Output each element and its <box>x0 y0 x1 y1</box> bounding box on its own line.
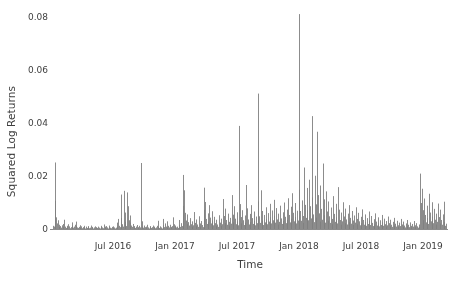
x-tick-label: Jul 2017 <box>219 241 256 251</box>
x-tick-label: Jul 2018 <box>343 241 380 251</box>
chart-figure: 00.020.040.060.08 Squared Log Returns Ti… <box>0 0 455 283</box>
x-axis-title: Time <box>45 258 455 270</box>
x-tick-label: Jan 2018 <box>279 241 319 251</box>
x-tick-label: Jan 2017 <box>155 241 195 251</box>
y-tick-label: 0.02 <box>8 171 48 181</box>
y-tick-label: 0.08 <box>8 12 48 22</box>
y-tick-label: 0.06 <box>8 65 48 75</box>
y-tick-label: 0 <box>8 224 48 234</box>
y-axis-tick-labels: 00.020.040.060.08 <box>0 0 48 283</box>
x-tick-label: Jan 2019 <box>403 241 443 251</box>
x-tick-label: Jul 2016 <box>95 241 132 251</box>
y-tick-label: 0.04 <box>8 118 48 128</box>
